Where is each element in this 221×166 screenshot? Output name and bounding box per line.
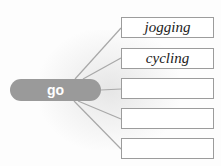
answer-box-3[interactable] <box>121 78 214 99</box>
answer-box-1[interactable]: jogging <box>121 17 214 38</box>
answer-box-5[interactable] <box>121 138 214 159</box>
answer-box-2[interactable]: cycling <box>121 48 214 69</box>
answer-box-4[interactable] <box>121 108 214 129</box>
center-word-pill: go <box>10 79 101 101</box>
